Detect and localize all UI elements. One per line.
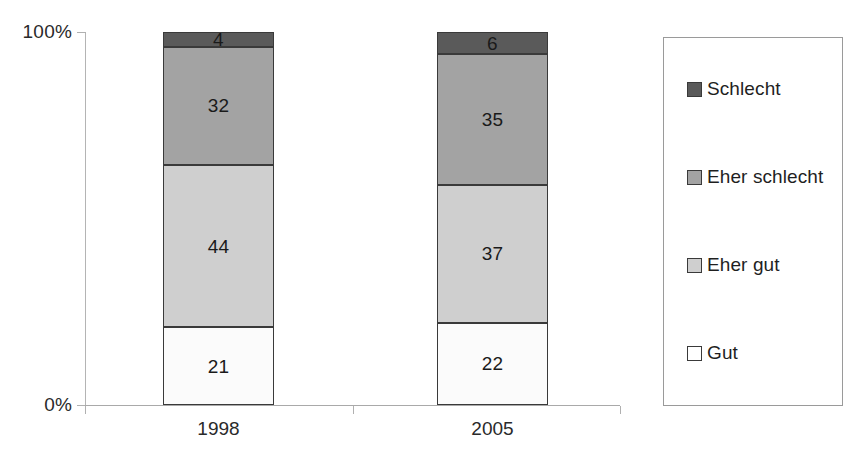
bar-segment-value: 44 — [208, 237, 230, 256]
legend-item-label: Eher gut — [707, 254, 780, 276]
bar-segment-2005-gut[interactable]: 22 — [437, 323, 548, 405]
legend-item-label: Eher schlecht — [707, 166, 823, 188]
bar-segment-value: 22 — [482, 354, 504, 373]
bar-segment-1998-eher-schlecht[interactable]: 32 — [163, 47, 274, 165]
x-axis-tick-1 — [353, 406, 354, 414]
legend-item-label: Schlecht — [707, 78, 781, 100]
bar-segment-value: 37 — [482, 244, 504, 263]
x-axis-category-1998: 1998 — [163, 418, 274, 440]
bar-segment-value: 6 — [487, 34, 498, 53]
bar-segment-2005-eher-schlecht[interactable]: 35 — [437, 54, 548, 185]
bar-segment-value: 35 — [482, 110, 504, 129]
bar-stack-1998[interactable]: 4324421 — [163, 32, 274, 405]
y-axis-line — [85, 32, 86, 406]
bar-segment-value: 21 — [208, 357, 230, 376]
bar-segment-1998-eher-gut[interactable]: 44 — [163, 165, 274, 327]
legend-item-schlecht[interactable]: Schlecht — [687, 78, 781, 100]
legend-swatch-icon — [687, 170, 702, 185]
y-axis-label-100: 100% — [0, 21, 72, 43]
legend-swatch-icon — [687, 346, 702, 361]
legend-swatch-icon — [687, 258, 702, 273]
x-axis-category-2005: 2005 — [437, 418, 548, 440]
bar-segment-1998-schlecht[interactable]: 4 — [163, 32, 274, 47]
bar-segment-2005-schlecht[interactable]: 6 — [437, 32, 548, 54]
x-axis-tick-2 — [620, 406, 621, 414]
bar-segment-1998-gut[interactable]: 21 — [163, 327, 274, 405]
bar-stack-2005[interactable]: 6353722 — [437, 32, 548, 405]
bar-segment-value: 32 — [208, 96, 230, 115]
legend-swatch-icon — [687, 82, 702, 97]
chart-legend: SchlechtEher schlechtEher gutGut — [663, 37, 843, 406]
bar-segment-2005-eher-gut[interactable]: 37 — [437, 185, 548, 323]
y-axis-label-0: 0% — [0, 394, 72, 416]
legend-item-eher-gut[interactable]: Eher gut — [687, 254, 780, 276]
stacked-bar-chart: 100% 0% 4324421199863537222005 SchlechtE… — [0, 0, 862, 462]
x-axis-tick-0 — [85, 406, 86, 414]
legend-item-eher-schlecht[interactable]: Eher schlecht — [687, 166, 823, 188]
y-axis-tick-100 — [77, 32, 86, 33]
legend-item-gut[interactable]: Gut — [687, 342, 738, 364]
legend-item-label: Gut — [707, 342, 738, 364]
bar-segment-value: 4 — [213, 32, 224, 47]
